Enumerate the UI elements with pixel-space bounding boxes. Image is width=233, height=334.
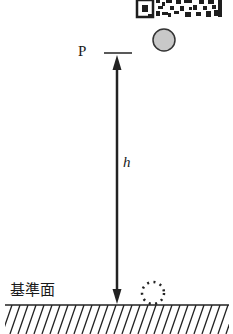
ball-icon bbox=[153, 29, 175, 51]
height-arrow bbox=[113, 55, 122, 304]
height-h-label: h bbox=[123, 155, 131, 170]
point-p-label: P bbox=[78, 44, 86, 59]
reference-plane-label: 基準面 bbox=[10, 283, 55, 298]
ball-at-ground-icon bbox=[142, 282, 164, 304]
reference-plane-ground bbox=[2, 305, 233, 334]
qr-code-icon bbox=[137, 0, 222, 17]
